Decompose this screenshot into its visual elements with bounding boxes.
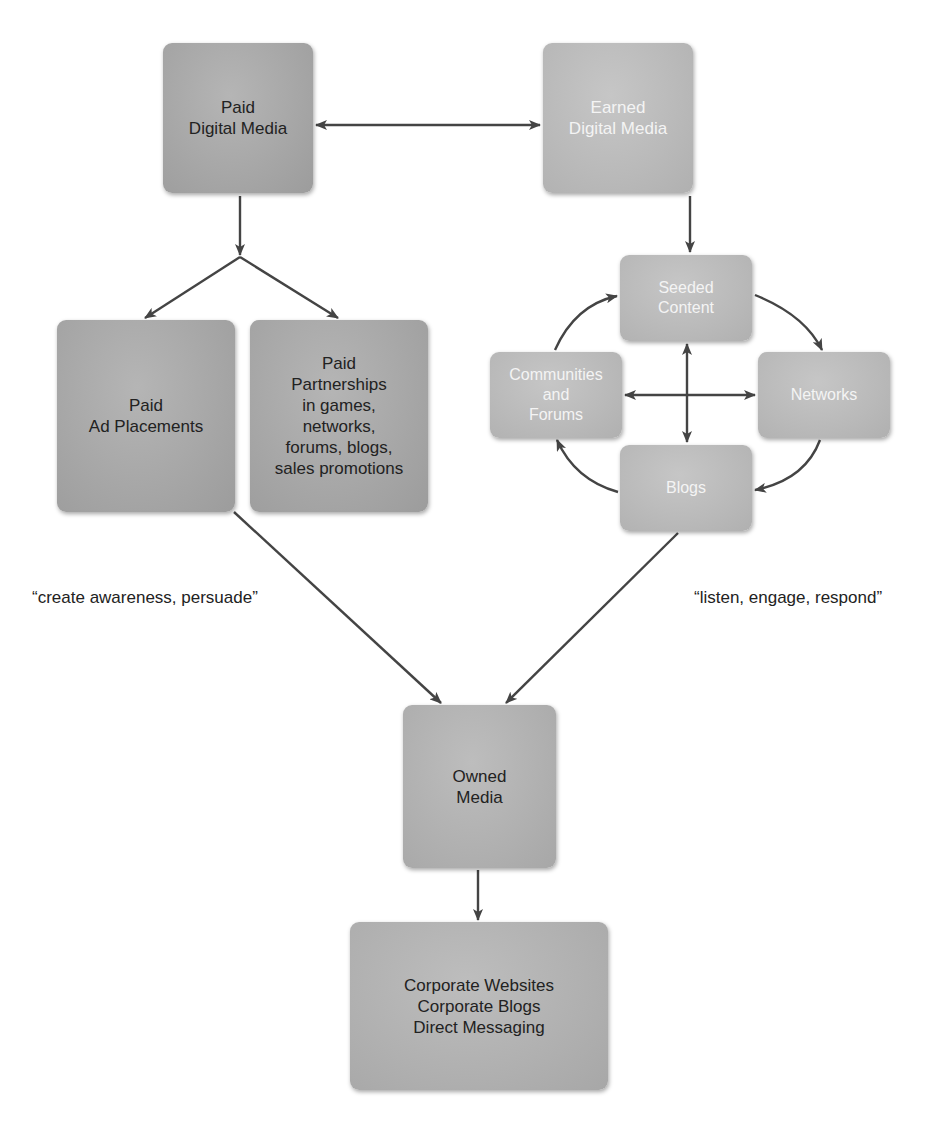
arrow-seeded-to-networks (755, 295, 822, 350)
arrow-ad-to-owned (234, 512, 441, 703)
node-seeded-content: Seeded Content (620, 255, 752, 341)
node-label: in games, (302, 395, 376, 416)
node-label: Networks (791, 385, 858, 405)
node-corporate-channels: Corporate Websites Corporate Blogs Direc… (350, 922, 608, 1090)
caption-paid-side: “create awareness, persuade” (32, 588, 258, 608)
node-label: Forums (529, 405, 583, 425)
node-label: Blogs (666, 478, 706, 498)
node-owned-media: Owned Media (403, 705, 556, 868)
node-communities-and-forums: Communities and Forums (490, 352, 622, 438)
arrow-blogs-to-owned (506, 533, 678, 703)
node-paid-partnerships: Paid Partnerships in games, networks, fo… (250, 320, 428, 512)
node-label: Communities (509, 365, 602, 385)
arrow-communities-to-seeded (555, 296, 617, 350)
node-label: Owned (453, 766, 507, 787)
node-label: Paid (129, 395, 163, 416)
node-label: Direct Messaging (413, 1017, 544, 1038)
node-label: Media (456, 787, 502, 808)
node-networks: Networks (758, 352, 890, 438)
arrow-networks-to-blogs (755, 440, 820, 490)
node-label: Seeded (658, 278, 713, 298)
node-blogs: Blogs (620, 445, 752, 531)
node-label: and (543, 385, 570, 405)
owned-paid-earned-media-diagram: Paid Digital Media Earned Digital Media … (0, 0, 936, 1128)
node-paid-digital-media: Paid Digital Media (163, 43, 313, 193)
node-label: Paid (322, 353, 356, 374)
node-label: networks, (303, 416, 376, 437)
node-label: Ad Placements (89, 416, 203, 437)
node-label: forums, blogs, (286, 437, 393, 458)
node-label: Corporate Blogs (418, 996, 541, 1017)
node-label: Digital Media (189, 118, 287, 139)
node-label: Partnerships (291, 374, 386, 395)
arrow-blogs-to-communities (557, 440, 618, 492)
node-paid-ad-placements: Paid Ad Placements (57, 320, 235, 512)
node-earned-digital-media: Earned Digital Media (543, 43, 693, 193)
arrow-to-ad-placements (145, 257, 240, 318)
caption-earned-side: “listen, engage, respond” (694, 588, 882, 608)
node-label: Earned (591, 97, 646, 118)
node-label: Paid (221, 97, 255, 118)
node-label: Content (658, 298, 714, 318)
arrow-to-partnerships (240, 257, 338, 318)
node-label: sales promotions (275, 458, 404, 479)
node-label: Corporate Websites (404, 975, 554, 996)
node-label: Digital Media (569, 118, 667, 139)
